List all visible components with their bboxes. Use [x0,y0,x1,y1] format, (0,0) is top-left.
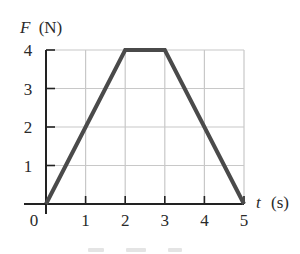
y-tick-label: 2 [24,118,33,137]
y-axis-label: F (N) [19,18,62,37]
x-axis-variable: t [256,193,262,212]
x-tick-label: 3 [161,211,170,230]
x-tick-label: 4 [200,211,209,230]
y-axis-variable: F [19,18,31,37]
x-axis-label: t (s) [256,193,289,212]
y-tick-label: 3 [24,80,33,99]
x-tick-label: 0 [30,211,39,230]
grid-lines [46,50,244,204]
x-tick-label: 5 [240,211,249,230]
y-tick-label: 1 [24,157,33,176]
y-tick-label: 4 [24,41,33,60]
y-axis-unit: (N) [39,18,63,37]
x-tick-label: 2 [121,211,130,230]
figure-caption-cropped [88,248,218,254]
force-time-chart: 0123451234 F (N) t (s) [0,0,300,254]
tick-labels: 0123451234 [24,41,249,230]
x-axis-unit: (s) [271,193,289,212]
axes [24,50,244,214]
x-tick-label: 1 [81,211,90,230]
